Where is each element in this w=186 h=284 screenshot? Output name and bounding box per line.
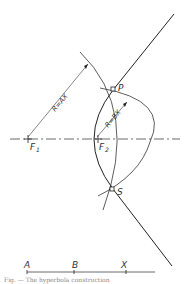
label-x: X (120, 260, 128, 270)
point-s-marker (110, 187, 114, 191)
label-b: B (72, 260, 78, 270)
label-f2-sub: 2 (105, 146, 109, 153)
label-radius-bx: R=BX (103, 108, 122, 129)
label-radius-ax: R=AX (50, 92, 69, 113)
figure-caption: Fig. — The hyperbola construction (4, 276, 184, 284)
hyperbola-branch (94, 90, 113, 189)
label-s: S (117, 187, 123, 197)
label-p: P (118, 83, 124, 93)
label-a: A (23, 260, 30, 270)
hyperbola-construction-diagram: P S F 1 F 2 R=AX R=BX A B X (0, 0, 186, 284)
lower-line (113, 189, 172, 266)
upper-line (113, 14, 174, 90)
label-f1-sub: 1 (36, 146, 40, 153)
point-p-marker (111, 87, 115, 91)
